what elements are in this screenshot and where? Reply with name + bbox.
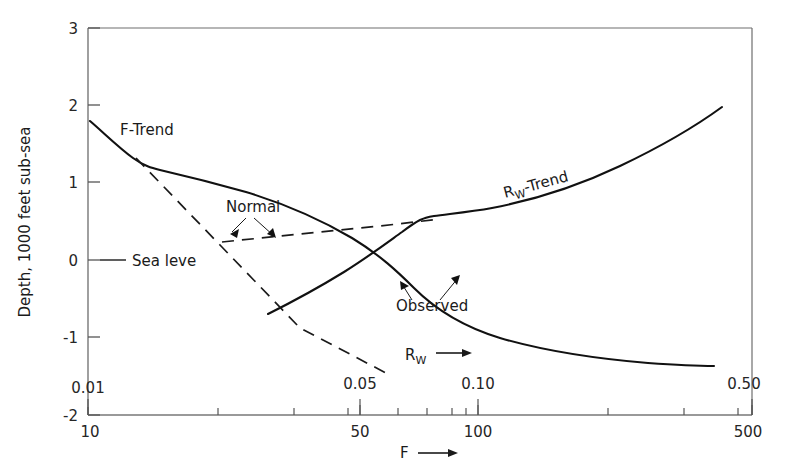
depth-vs-F-Rw-chart: 3 2 1 0 -1 -2 Depth, 1000 feet sub-sea 1…	[0, 0, 793, 473]
rw-trend-curve	[268, 107, 722, 314]
rw-axis-ticks	[88, 399, 752, 415]
f-trend-curve	[90, 121, 714, 366]
chart-canvas: 3 2 1 0 -1 -2 Depth, 1000 feet sub-sea 1…	[0, 0, 793, 473]
normal-upper-dashed	[222, 219, 440, 242]
observed-label: Observed	[396, 297, 468, 315]
f-tick-10: 10	[80, 423, 99, 441]
f-arrow-icon	[448, 449, 458, 457]
y-tick-1: 1	[68, 174, 78, 192]
rw-tick-005: 0.05	[343, 375, 376, 393]
rw-trend-label: RW-Trend	[501, 167, 571, 204]
f-tick-50: 50	[350, 423, 369, 441]
y-tick-m2: -2	[63, 407, 78, 425]
y-tick-m1: -1	[63, 329, 78, 347]
f-axis-title-group: F	[400, 444, 458, 462]
normal-label: Normal	[226, 198, 280, 216]
y-tick-0: 0	[68, 252, 78, 270]
rw-axis-tick-labels: 0.01 0.05 0.10 0.50	[71, 375, 760, 397]
rw-axis-title-group: RW	[405, 346, 472, 367]
y-tick-3: 3	[68, 20, 78, 38]
y-axis-title: Depth, 1000 feet sub-sea	[16, 126, 34, 317]
normal-annotation: Normal	[226, 198, 280, 238]
f-axis-title: F	[400, 444, 409, 462]
f-tick-500: 500	[734, 423, 763, 441]
y-tick-2: 2	[68, 97, 78, 115]
rw-axis-title: RW	[405, 346, 426, 367]
rw-tick-001: 0.01	[71, 379, 104, 397]
observed-leader-arrow-right	[451, 275, 460, 285]
f-trend-label: F-Trend	[120, 121, 174, 139]
rw-tick-050: 0.50	[727, 375, 760, 393]
sea-level-label: Sea leve	[132, 252, 196, 270]
f-axis-ticks	[88, 405, 752, 415]
sea-level-marker: Sea leve	[100, 252, 196, 270]
rw-tick-010: 0.10	[461, 375, 494, 393]
normal-leader-arrow-left	[230, 229, 239, 238]
y-axis-ticks	[88, 28, 100, 415]
f-tick-100: 100	[464, 423, 493, 441]
y-axis-tick-labels: 3 2 1 0 -1 -2	[63, 20, 78, 425]
rw-arrow-icon	[462, 349, 472, 357]
f-axis-tick-labels: 10 50 100 500	[80, 423, 762, 441]
